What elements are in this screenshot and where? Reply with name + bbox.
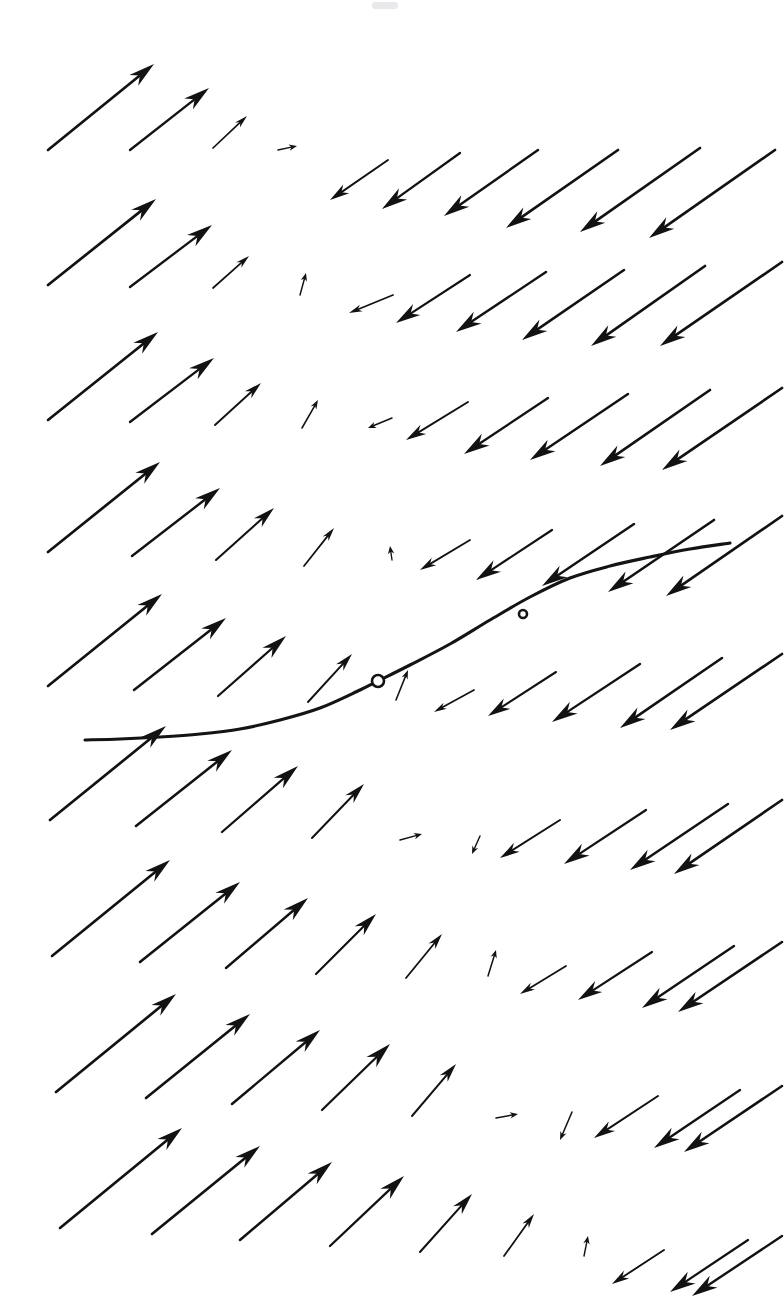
direction-field-canvas: [0, 0, 784, 1310]
secondary-point-marker: [519, 610, 527, 618]
initial-condition-marker: [372, 675, 384, 687]
plot-background: [0, 0, 784, 1310]
scan-artifact-layer: [372, 2, 398, 9]
direction-field-figure: [0, 0, 784, 1310]
scan-speck: [372, 2, 398, 9]
